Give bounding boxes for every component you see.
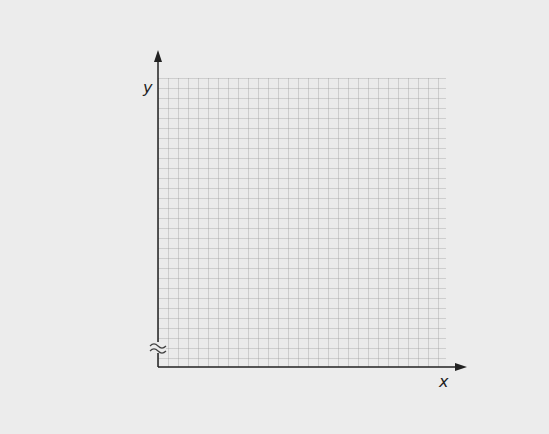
- axes: [0, 0, 549, 434]
- y-axis-arrow-icon: [154, 50, 162, 62]
- x-axis-label: x: [439, 372, 448, 391]
- x-axis-arrow-icon: [455, 363, 467, 371]
- y-axis-label: y: [143, 78, 152, 97]
- y-axis: [154, 50, 162, 367]
- x-axis: [158, 363, 467, 371]
- axis-break-icon: [150, 342, 166, 353]
